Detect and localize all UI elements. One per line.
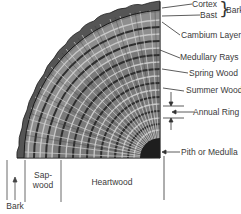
label-pith: Pith or Medulla [181,148,238,157]
label-annual-ring: Annual Ring [193,108,239,117]
label-spring-wood: Spring Wood [189,69,238,78]
label-bast: Bast [200,11,217,20]
label-summer-wood: Summer Wood [186,86,241,95]
label-cambium: Cambium Layer [181,31,241,40]
label-bark-group: Bark [226,6,241,15]
label-cortex: Cortex [192,0,217,9]
label-sapwood: Sap- wood [26,170,60,190]
label-bark-bottom: Bark [4,201,26,211]
label-heartwood: Heartwood [62,177,162,187]
label-medullary-rays: Medullary Rays [180,53,239,62]
